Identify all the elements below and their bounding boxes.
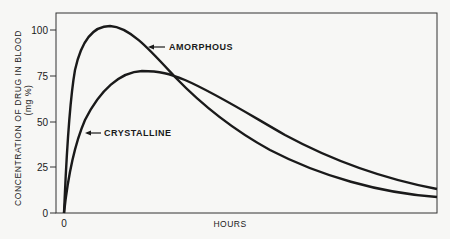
crystalline-annotation: CRYSTALLINE bbox=[85, 128, 172, 138]
crystalline-label: CRYSTALLINE bbox=[104, 128, 172, 138]
y-axis-unit: (mg %) bbox=[23, 85, 33, 116]
y-tick-25: 25 bbox=[37, 162, 49, 173]
arrow-left-icon bbox=[85, 131, 91, 136]
x-axis-label: HOURS bbox=[213, 219, 246, 229]
y-axis-ticks bbox=[50, 30, 56, 213]
x-tick-0: 0 bbox=[61, 218, 67, 229]
crystalline-curve bbox=[64, 71, 437, 213]
y-tick-0: 0 bbox=[42, 208, 48, 219]
y-tick-50: 50 bbox=[37, 117, 49, 128]
amorphous-curve bbox=[64, 26, 437, 213]
amorphous-label: AMORPHOUS bbox=[169, 42, 233, 52]
y-tick-75: 75 bbox=[37, 71, 49, 82]
chart: 100 75 50 25 0 0 HOURS CONCENTRATION OF … bbox=[0, 0, 450, 239]
y-tick-100: 100 bbox=[31, 25, 48, 36]
y-axis-label: CONCENTRATION OF DRUG IN BLOOD bbox=[13, 30, 23, 206]
amorphous-annotation: AMORPHOUS bbox=[148, 42, 233, 52]
